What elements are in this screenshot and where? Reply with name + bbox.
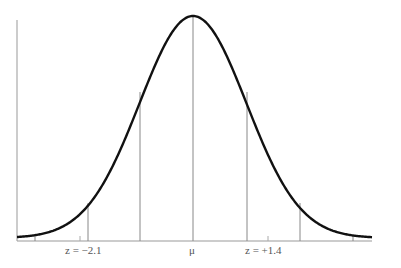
z-left-label: z = −2.1 (65, 244, 102, 256)
z-right-label: z = +1.4 (245, 244, 282, 256)
bell-curve (17, 16, 372, 237)
mean-label: μ (189, 244, 195, 256)
normal-distribution-diagram: z = −2.1 μ z = +1.4 (0, 0, 401, 268)
